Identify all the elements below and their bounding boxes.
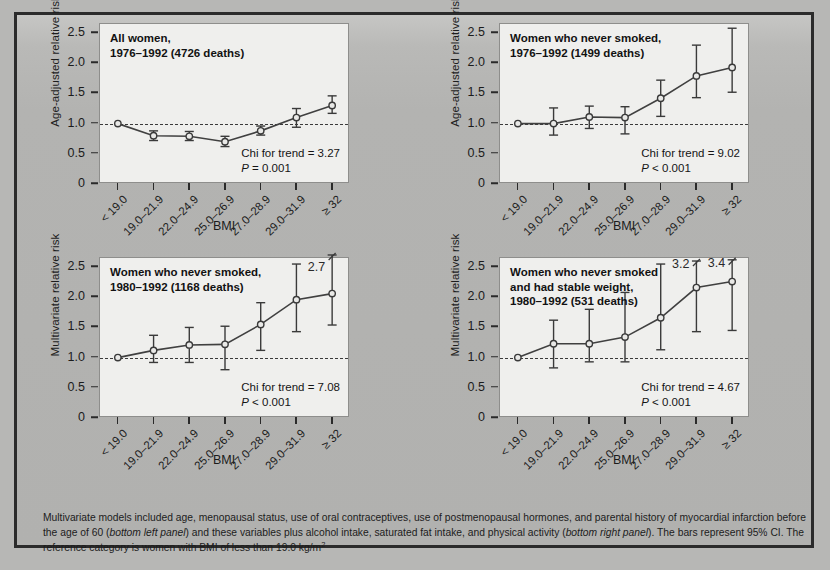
panel-title-line: All women, (110, 31, 244, 46)
error-bar (328, 253, 337, 325)
chi-for-trend: Chi for trend = 3.27 (241, 146, 340, 161)
panel-title: Women who never smokedand had stable wei… (510, 265, 658, 309)
chart-panel-bottom-right: Multivariate relative risk00.51.01.52.02… (427, 257, 812, 485)
x-tick-label: ≥ 32 (719, 427, 743, 451)
stat-annotation: Chi for trend = 3.27P = 0.001 (241, 146, 340, 176)
y-tick-label: 1.0 (39, 350, 85, 364)
x-axis-title: BMI (99, 219, 349, 233)
y-tick-mark (491, 416, 498, 418)
x-tick-mark (660, 417, 662, 424)
y-tick-mark (91, 356, 98, 358)
x-axis: < 19.019.0–21.922.0–24.925.0–26.927.0–28… (99, 183, 349, 184)
y-tick-mark (91, 92, 98, 94)
footnote-emphasis: bottom right panel (566, 527, 648, 538)
y-tick-label: 0.5 (439, 146, 485, 160)
panel-title-line: Women who never smoked, (510, 31, 661, 46)
x-tick-mark (224, 183, 226, 190)
data-point-marker (729, 278, 735, 284)
p-value: P < 0.001 (641, 161, 740, 176)
plot-area: Women who never smokedand had stable wei… (499, 257, 749, 417)
truncated-value-label: 2.7 (308, 260, 325, 274)
y-tick-mark (91, 326, 98, 328)
panel-title-line: 1976–1992 (1499 deaths) (510, 46, 661, 61)
panel-title-line: Women who never smoked, (110, 265, 261, 280)
plot-panel-bottom-left: Multivariate relative risk00.51.01.52.02… (27, 257, 412, 485)
y-tick-label: 1.5 (439, 85, 485, 99)
y-tick-mark (491, 92, 498, 94)
panel-title-line: 1976–1992 (4726 deaths) (110, 46, 244, 61)
y-tick-mark (91, 416, 98, 418)
data-point-marker (186, 133, 192, 139)
footnote-superscript: 2 (321, 540, 325, 549)
p-value: P = 0.001 (241, 161, 340, 176)
data-point-marker (622, 334, 628, 340)
x-tick-mark (260, 417, 262, 424)
y-tick-mark (491, 295, 498, 297)
x-tick-mark (695, 183, 697, 190)
chi-for-trend: Chi for trend = 7.08 (241, 380, 340, 395)
data-point-marker (222, 139, 228, 145)
x-tick-mark (731, 417, 733, 424)
truncated-value-label: 3.2 (672, 257, 689, 271)
plot-panel-top-right: Age-adjusted relative risk00.51.01.52.02… (427, 23, 812, 251)
x-tick-mark (731, 183, 733, 190)
data-point-marker (329, 102, 335, 108)
panel-title: Women who never smoked,1980–1992 (1168 d… (110, 265, 261, 294)
y-tick-mark (491, 31, 498, 33)
data-point-marker (222, 341, 228, 347)
x-tick-mark (117, 417, 119, 424)
x-tick-mark (117, 183, 119, 190)
error-bar (728, 258, 737, 331)
data-point-marker (115, 120, 121, 126)
y-tick-label: 1.5 (439, 319, 485, 333)
x-tick-mark (188, 183, 190, 190)
chart-panel-bottom-left: Multivariate relative risk00.51.01.52.02… (27, 257, 412, 485)
x-axis-title: BMI (99, 453, 349, 467)
panel-title-line: 1980–1992 (1168 deaths) (110, 280, 261, 295)
y-tick-label: 0 (439, 176, 485, 190)
data-point-marker (258, 321, 264, 327)
y-tick-mark (91, 152, 98, 154)
p-value: P < 0.001 (241, 395, 340, 410)
data-point-marker (550, 341, 556, 347)
y-tick-label: 2.0 (439, 55, 485, 69)
x-tick-mark (624, 183, 626, 190)
x-tick-mark (224, 417, 226, 424)
x-tick-mark (331, 183, 333, 190)
data-point-marker (258, 128, 264, 134)
y-tick-label: 2.5 (439, 259, 485, 273)
chart-panel-top-right: Age-adjusted relative risk00.51.01.52.02… (427, 23, 812, 251)
plot-panel-bottom-right: Multivariate relative risk00.51.01.52.02… (427, 257, 812, 485)
x-tick-mark (624, 417, 626, 424)
panel-title: All women,1976–1992 (4726 deaths) (110, 31, 244, 60)
x-tick-mark (695, 417, 697, 424)
data-point-marker (293, 296, 299, 302)
y-tick-mark (91, 182, 98, 184)
x-tick-mark (588, 417, 590, 424)
chi-for-trend: Chi for trend = 4.67 (641, 380, 740, 395)
y-tick-label: 0.5 (39, 380, 85, 394)
y-tick-label: 2.0 (39, 55, 85, 69)
plot-area: All women,1976–1992 (4726 deaths)Chi for… (99, 23, 349, 183)
data-point-marker (586, 341, 592, 347)
data-point-marker (693, 73, 699, 79)
data-point-marker (515, 120, 521, 126)
stat-annotation: Chi for trend = 9.02P < 0.001 (641, 146, 740, 176)
plot-area: Women who never smoked,1980–1992 (1168 d… (99, 257, 349, 417)
figure-root: Age-adjusted relative risk00.51.01.52.02… (0, 0, 830, 570)
data-point-marker (150, 347, 156, 353)
y-tick-mark (491, 152, 498, 154)
x-tick-mark (188, 417, 190, 424)
y-tick-label: 0 (39, 410, 85, 424)
y-tick-label: 2.0 (39, 289, 85, 303)
y-tick-mark (491, 122, 498, 124)
y-tick-label: 2.0 (439, 289, 485, 303)
data-point-marker (693, 284, 699, 290)
y-tick-mark (91, 265, 98, 267)
x-tick-mark (295, 417, 297, 424)
y-tick-label: 1.0 (39, 116, 85, 130)
y-tick-label: 1.5 (39, 319, 85, 333)
panel-grid: Age-adjusted relative risk00.51.01.52.02… (17, 15, 817, 485)
x-tick-mark (260, 183, 262, 190)
x-axis-title: BMI (499, 453, 749, 467)
